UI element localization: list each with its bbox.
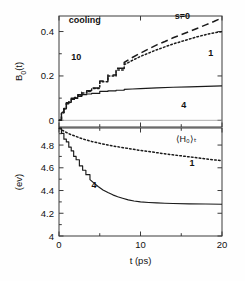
lower-annotation-H: ⟨H₀⟩ₜ xyxy=(176,134,197,144)
x-axis-title: t (ps) xyxy=(130,255,152,266)
upper-panel-frame xyxy=(59,16,222,127)
upper-annotation-1: 1 xyxy=(208,48,213,58)
upper-annotation-4: 4 xyxy=(181,100,186,110)
x-tick-label: 0 xyxy=(56,239,61,250)
upper-curve-4 xyxy=(59,86,222,120)
upper-y-axis-title: B0(t) xyxy=(13,62,27,81)
y-tick-label: 4.8 xyxy=(41,140,54,151)
y-tick-label: 4 xyxy=(49,231,54,242)
y-tick-label: 0.4 xyxy=(41,26,54,37)
lower-annotation-4: 4 xyxy=(92,180,97,190)
lower-panel-frame xyxy=(59,128,222,236)
upper-annotation-10: 10 xyxy=(71,52,81,62)
two-panel-plot: 0102000.20.444.24.44.64.8cooling10s=014⟨… xyxy=(0,0,245,281)
lower-y-axis-title: (ev) xyxy=(13,174,24,190)
y-tick-label: 0 xyxy=(49,115,54,126)
y-tick-label: 4.2 xyxy=(41,208,54,219)
x-tick-label: 10 xyxy=(135,239,146,250)
y-tick-label: 0.2 xyxy=(41,70,54,81)
upper-annotation-s0: s=0 xyxy=(175,11,190,21)
lower-annotation-1: 1 xyxy=(189,158,194,168)
lower-curve-1 xyxy=(59,128,222,161)
figure-container: 0102000.20.444.24.44.64.8cooling10s=014⟨… xyxy=(0,0,245,281)
x-tick-label: 20 xyxy=(217,239,228,250)
y-tick-label: 4.4 xyxy=(41,185,54,196)
upper-curve-s-0 xyxy=(59,18,222,121)
upper-annotation-cooling: cooling xyxy=(69,15,101,25)
upper-curve-1 xyxy=(59,32,222,121)
y-tick-label: 4.6 xyxy=(41,162,54,173)
